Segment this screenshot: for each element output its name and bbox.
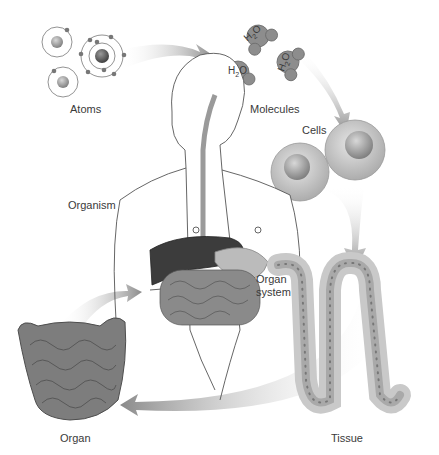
intestines-in-body bbox=[160, 270, 260, 325]
diagram-canvas bbox=[0, 0, 439, 455]
cells-illustration bbox=[271, 120, 385, 201]
label-organ-system: Organ system bbox=[256, 273, 291, 299]
label-organ-system-line1: Organ bbox=[256, 273, 291, 286]
label-atoms: Atoms bbox=[70, 103, 101, 116]
molecule-formula: H2O bbox=[228, 64, 247, 81]
tissue-illustration bbox=[278, 263, 400, 403]
label-cells: Cells bbox=[302, 124, 326, 137]
organ-illustration bbox=[18, 318, 126, 420]
label-organism: Organism bbox=[68, 199, 116, 212]
label-tissue: Tissue bbox=[331, 432, 363, 445]
label-organ-system-line2: system bbox=[256, 286, 291, 299]
label-molecules: Molecules bbox=[250, 103, 300, 116]
label-organ: Organ bbox=[60, 432, 91, 445]
arrow-molecules-to-cells bbox=[300, 52, 350, 134]
atoms-illustration bbox=[42, 27, 126, 97]
